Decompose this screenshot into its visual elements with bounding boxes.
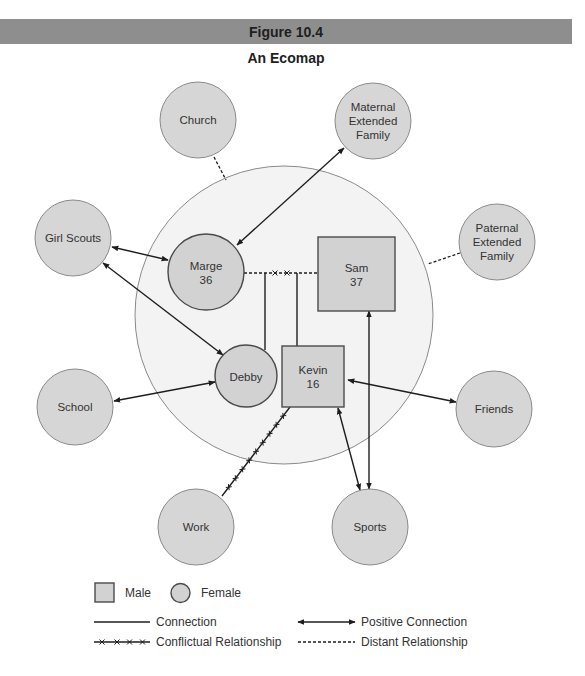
paternal-label-line2: Extended	[473, 236, 522, 248]
node-work: Work	[158, 489, 234, 565]
maternal-label-line2: Extended	[349, 115, 398, 127]
node-girl-scouts: Girl Scouts	[35, 200, 111, 276]
legend-female-label: Female	[201, 586, 241, 600]
paternal-distant-line	[428, 253, 460, 264]
figure-title: An Ecomap	[247, 50, 324, 66]
church-label: Church	[179, 114, 216, 126]
sam-age: 37	[350, 276, 363, 288]
debby-name: Debby	[229, 371, 262, 383]
legend-male-square-icon	[95, 583, 114, 602]
school-label: School	[57, 401, 92, 413]
church-distant-line	[214, 157, 226, 180]
sam-square	[318, 237, 395, 311]
marge-age: 36	[200, 274, 213, 286]
paternal-label-line1: Paternal	[476, 222, 519, 234]
kevin-age: 16	[307, 378, 320, 390]
legend-male-label: Male	[125, 586, 151, 600]
node-church: Church	[160, 82, 236, 158]
node-friends: Friends	[456, 371, 532, 447]
node-maternal-extended-family: Maternal Extended Family	[335, 83, 411, 159]
sports-label: Sports	[353, 521, 386, 533]
work-label: Work	[183, 521, 210, 533]
node-paternal-extended-family: Paternal Extended Family	[459, 204, 535, 280]
paternal-label-line3: Family	[480, 250, 514, 262]
node-marge: Marge 36	[168, 234, 244, 310]
kevin-name: Kevin	[299, 364, 328, 376]
marge-name: Marge	[190, 260, 223, 272]
friends-label: Friends	[475, 403, 514, 415]
kevin-square	[282, 346, 344, 407]
node-kevin: Kevin 16	[282, 346, 344, 407]
girl-scouts-label: Girl Scouts	[45, 232, 101, 244]
legend-connection-label: Connection	[156, 615, 217, 629]
legend-female-circle-icon	[171, 584, 190, 603]
node-sports: Sports	[332, 489, 408, 565]
legend-conflictual-label: Conflictual Relationship	[156, 635, 282, 649]
node-school: School	[37, 369, 113, 445]
maternal-label-line3: Family	[356, 129, 390, 141]
node-debby: Debby	[215, 345, 277, 407]
node-sam: Sam 37	[318, 237, 395, 311]
figure-number: Figure 10.4	[249, 24, 323, 40]
marge-circle	[168, 234, 244, 310]
sam-name: Sam	[345, 262, 369, 274]
maternal-label-line1: Maternal	[351, 101, 396, 113]
household-circle	[135, 166, 433, 464]
legend: Male Female Connection Conflictual Relat…	[94, 583, 468, 649]
legend-distant-label: Distant Relationship	[361, 635, 468, 649]
legend-positive-label: Positive Connection	[361, 615, 467, 629]
ecomap-figure: Figure 10.4 An Ecomap Church Maternal Ex…	[0, 0, 585, 676]
